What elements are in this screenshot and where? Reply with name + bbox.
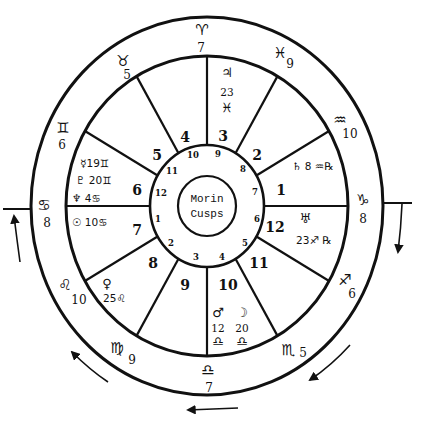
virgo-icon: ♍ (110, 339, 123, 357)
house-9: 9 (180, 277, 190, 293)
cusp-11: 11 (166, 166, 178, 176)
venus-sign-icon: ♌ (116, 292, 125, 304)
libra-degree: 7 (205, 381, 213, 395)
cusp-6: 6 (254, 214, 260, 224)
pluto-degree: 20 (89, 174, 102, 186)
aries-degree: 7 (197, 41, 205, 55)
scorpio-icon: ♏ (281, 341, 295, 359)
capricorn-icon: ♑ (356, 191, 369, 209)
cusp-2: 2 (168, 238, 174, 248)
neptune-icon: ♆ (72, 192, 81, 204)
aquarius-degree: 10 (342, 127, 357, 141)
cusp-12: 12 (155, 188, 167, 198)
retrograde-icon: ℞ (324, 160, 333, 172)
sun-icon: ☉ (72, 216, 81, 228)
capricorn-degree: 8 (359, 212, 367, 226)
pluto-position: ♇ 20♊ (76, 174, 112, 186)
gemini-degree: 6 (58, 138, 66, 152)
gemini-icon: ♊ (56, 119, 69, 137)
cusp-10: 10 (187, 150, 199, 160)
cusp-5: 5 (242, 238, 248, 248)
house-4: 4 (180, 129, 190, 145)
house-6: 6 (132, 182, 142, 198)
cusp-1: 1 (155, 214, 161, 224)
house-2: 2 (252, 147, 262, 163)
pluto-icon: ♇ (76, 174, 85, 186)
jupiter-sign-icon: ♓ (221, 100, 233, 115)
up-arrow-icon (14, 216, 20, 262)
center-circle (178, 176, 236, 236)
saturn-icon: ♄ (292, 160, 301, 172)
leo-icon: ♌ (58, 276, 71, 294)
cancer-degree: 8 (43, 216, 51, 230)
sagittarius-degree: 6 (348, 287, 356, 301)
uranus-position: 23♐ ℞ (296, 234, 332, 246)
jupiter-icon: ♃ (221, 65, 233, 80)
sun-degree: 10 (85, 216, 98, 228)
house-7: 7 (132, 222, 142, 238)
saturn-degree: 8 (305, 160, 312, 172)
uranus-sign-icon: ♐ (309, 234, 318, 246)
cancer-icon: ♋ (37, 196, 50, 214)
center-label-line1: Morin (190, 193, 223, 205)
venus-degree: 25 (103, 292, 116, 304)
pisces-icon: ♓ (273, 44, 286, 62)
pisces-degree: 9 (286, 57, 294, 71)
mars-degree: 12 (211, 322, 224, 334)
house-1: 1 (276, 182, 286, 198)
virgo-degree: 9 (128, 353, 136, 367)
cusp-4: 4 (219, 252, 225, 262)
morin-cusps-chart: Morin Cusps ♈ 7 ♉ 5 ♊ 6 ♋ 8 ♌ 10 ♍ 9 ♎ 7… (0, 0, 422, 422)
house-11: 11 (249, 255, 268, 271)
neptune-position: ♆ 4♋ (72, 192, 101, 204)
left-arrow-icon (188, 408, 238, 410)
mercury-sign-icon: ♊ (100, 157, 109, 169)
cusp-7: 7 (252, 187, 258, 197)
cusp-9: 9 (215, 149, 221, 159)
house-5: 5 (152, 147, 162, 163)
uranus-icon: ♅ (299, 211, 311, 226)
libra-icon: ♎ (201, 361, 214, 379)
venus-icon: ♀ (102, 276, 112, 291)
sun-position: ☉ 10♋ (72, 216, 108, 228)
house-10: 10 (218, 277, 238, 293)
down-left-arrow-icon (310, 345, 350, 380)
house-12: 12 (265, 219, 284, 235)
taurus-degree: 5 (123, 68, 131, 82)
mars-icon: ♂ (212, 305, 224, 320)
mercury-position: ☿19♊ (80, 157, 109, 169)
aries-icon: ♈ (195, 21, 208, 39)
pluto-sign-icon: ♊ (102, 174, 111, 186)
down-arrow-icon (398, 204, 402, 252)
saturn-sign-icon: ♒ (315, 160, 324, 172)
moon-degree: 20 (235, 322, 248, 334)
scorpio-degree: 5 (299, 346, 307, 360)
retrograde-icon: ℞ (322, 234, 331, 246)
house-8: 8 (148, 255, 158, 271)
jupiter-degree: 23 (220, 86, 233, 98)
uranus-degree: 23 (296, 234, 309, 246)
leo-degree: 10 (71, 293, 86, 307)
cusp-3: 3 (193, 252, 199, 262)
mercury-degree: 19 (86, 157, 99, 169)
neptune-sign-icon: ♋ (91, 192, 100, 204)
mars-sign-icon: ♎ (212, 334, 224, 349)
house-3: 3 (218, 128, 228, 144)
venus-position: 25♌ (103, 292, 126, 304)
cusp-8: 8 (240, 164, 246, 174)
center-label-line2: Cusps (190, 208, 223, 220)
sun-sign-icon: ♋ (98, 216, 107, 228)
saturn-position: ♄ 8 ♒℞ (292, 160, 334, 172)
moon-sign-icon: ♎ (236, 334, 248, 349)
moon-icon: ☽ (236, 305, 248, 320)
